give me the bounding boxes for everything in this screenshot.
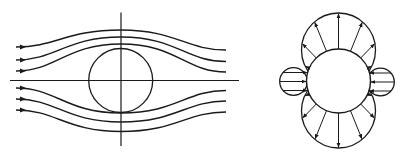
flow-arrow-icon	[20, 108, 26, 113]
flow-arrow-icon	[20, 45, 26, 50]
figure-canvas	[0, 0, 400, 157]
suction-arrow-bottom	[350, 111, 361, 139]
flow-arrow-icon	[20, 58, 26, 63]
suction-arrow-top	[350, 23, 362, 52]
suction-arrow-bottom	[361, 104, 374, 118]
suction-arrow-top	[361, 44, 375, 58]
suction-arrow-top	[303, 44, 317, 58]
suction-arrow-bottom	[303, 104, 316, 118]
pressure-panel	[280, 13, 395, 148]
suction-arrow-top	[315, 23, 327, 52]
streamline-panel	[10, 13, 239, 147]
flow-arrow-icon	[20, 97, 26, 102]
cylinder-flow-diagram	[0, 0, 400, 157]
suction-arrow-bottom	[315, 111, 326, 139]
flow-arrow-icon	[20, 86, 26, 91]
flow-arrow-icon	[20, 69, 26, 74]
